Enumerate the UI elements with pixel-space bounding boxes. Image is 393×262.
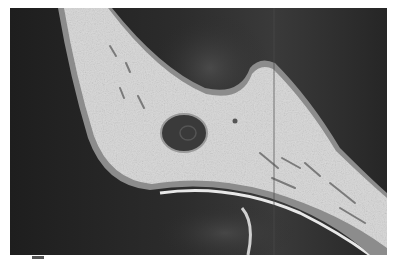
lacuna-oval xyxy=(161,114,207,152)
caption-fragment xyxy=(32,256,44,259)
micrograph-image xyxy=(10,8,387,255)
